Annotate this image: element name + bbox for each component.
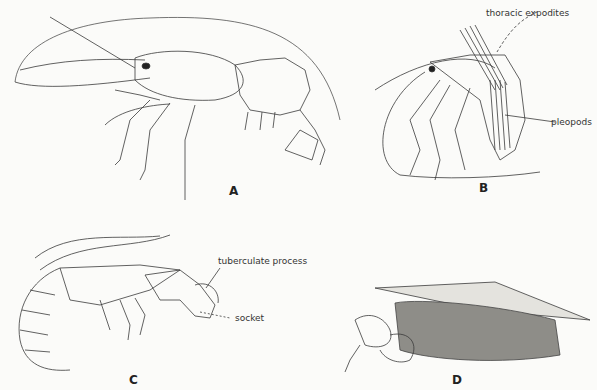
panel-letter-a: A [229,184,238,198]
label-thoracic-expodites: thoracic expodites [486,8,569,18]
label-pleopods: pleopods [551,117,592,127]
panel-a-drawing [15,17,340,200]
label-tuberculate-process: tuberculate process [218,256,307,266]
panel-c-drawing [19,235,230,370]
panel-letter-d: D [452,373,462,387]
label-socket: socket [235,313,264,323]
panel-d-drawing [345,282,590,372]
panel-letter-c: C [129,373,138,387]
panel-b-drawing [375,12,555,180]
figure-artwork [0,0,597,390]
panel-letter-b: B [479,181,488,195]
